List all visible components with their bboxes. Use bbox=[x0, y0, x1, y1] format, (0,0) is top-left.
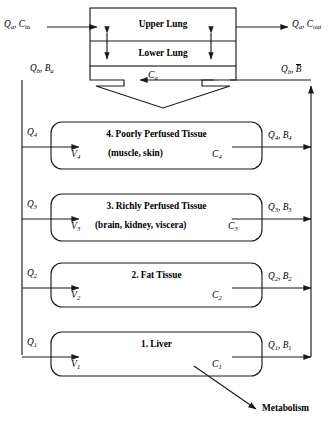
venous-in-flow-base: Q bbox=[281, 64, 288, 74]
arterial-concentration-label: Ca bbox=[148, 70, 158, 80]
outlet-flow-base: Q bbox=[292, 19, 299, 29]
inlet-flow-base: Q bbox=[4, 19, 11, 29]
arterial-conc-sub: a bbox=[154, 74, 157, 81]
c3-inflow-sub: 3 bbox=[34, 203, 37, 210]
arterial-out-flow-sub: b bbox=[37, 67, 40, 74]
inlet-conc-sub: in bbox=[25, 23, 30, 30]
arterial-out-conc-sub: a bbox=[50, 67, 53, 74]
compartment-2-volume: V2 bbox=[71, 290, 80, 300]
c4-inflow-sub: 4 bbox=[34, 131, 37, 138]
c4-volume-base: V bbox=[71, 148, 77, 159]
inlet-flow-sub: a bbox=[11, 23, 14, 30]
c2-inflow-base: Q bbox=[27, 268, 34, 278]
outlet-conc-sub: out bbox=[313, 23, 321, 30]
compartment-2-title: 2. Fat Tissue bbox=[51, 271, 262, 280]
c1-volume-sub: 1 bbox=[77, 363, 80, 370]
venous-in-label: Qb, B bbox=[281, 64, 301, 74]
c3-outflow-flow-base: Q bbox=[268, 202, 275, 212]
compartment-1-outflow-label: Q1, B1 bbox=[268, 341, 292, 350]
compartment-2-inflow-label: Q2 bbox=[27, 269, 37, 278]
compartment-4-inflow-label: Q4 bbox=[27, 128, 37, 137]
compartment-1-volume: V1 bbox=[71, 359, 80, 369]
c1-outflow-conc-sub: 1 bbox=[288, 344, 291, 351]
arterial-out-label: Qb, Ba bbox=[30, 64, 54, 73]
compartment-3-inflow-label: Q3 bbox=[27, 200, 37, 209]
compartment-4-subtitle: (muscle, skin) bbox=[108, 149, 163, 158]
compartment-4-outflow-label: Q4, B4 bbox=[268, 131, 292, 140]
c1-inflow-sub: 1 bbox=[34, 341, 37, 348]
c1-volume-base: V bbox=[71, 358, 77, 369]
compartment-3-outflow-label: Q3, B3 bbox=[268, 203, 292, 212]
c4-outflow-flow-sub: 4 bbox=[275, 134, 278, 141]
c1-outflow-flow-sub: 1 bbox=[275, 344, 278, 351]
c3-conc-sub: 3 bbox=[234, 225, 237, 232]
c3-volume-sub: 3 bbox=[77, 225, 80, 232]
arterial-out-flow-base: Q bbox=[30, 63, 37, 73]
c3-inflow-base: Q bbox=[27, 199, 34, 209]
compartment-2-outflow-label: Q2, B2 bbox=[268, 272, 292, 281]
arterial-funnel bbox=[90, 66, 236, 108]
c1-inflow-base: Q bbox=[27, 337, 34, 347]
compartment-1-title: 1. Liver bbox=[51, 340, 262, 349]
compartment-4-volume: V4 bbox=[71, 149, 80, 159]
inlet-conc-base: C bbox=[19, 19, 25, 29]
c1-outflow-flow-base: Q bbox=[268, 340, 275, 350]
metabolism-arrow bbox=[194, 366, 256, 409]
c4-conc-sub: 4 bbox=[218, 153, 221, 160]
c2-outflow-flow-base: Q bbox=[268, 271, 275, 281]
compartment-3-title: 3. Richly Perfused Tissue bbox=[51, 202, 262, 211]
upper-lung-label: Upper Lung bbox=[90, 20, 236, 29]
compartment-3-concentration: C3 bbox=[228, 221, 238, 231]
compartment-4-title: 4. Poorly Perfused Tissue bbox=[51, 130, 262, 139]
c2-volume-sub: 2 bbox=[77, 294, 80, 301]
lower-lung-label: Lower Lung bbox=[90, 49, 236, 58]
c2-outflow-flow-sub: 2 bbox=[275, 275, 278, 282]
c3-volume-base: V bbox=[71, 220, 77, 231]
compartment-3-subtitle: (brain, kidney, viscera) bbox=[95, 221, 186, 230]
c4-outflow-flow-base: Q bbox=[268, 130, 275, 140]
c2-volume-base: V bbox=[71, 289, 77, 300]
c4-inflow-base: Q bbox=[27, 127, 34, 137]
c2-conc-sub: 2 bbox=[218, 294, 221, 301]
metabolism-label: Metabolism bbox=[262, 404, 309, 413]
venous-in-conc-base: B bbox=[296, 64, 302, 74]
outlet-flow-sub: a bbox=[299, 23, 302, 30]
outlet-conc-base: C bbox=[307, 19, 313, 29]
compartment-3-volume: V3 bbox=[71, 221, 80, 231]
c2-outflow-conc-sub: 2 bbox=[288, 275, 291, 282]
compartment-1-inflow-label: Q1 bbox=[27, 338, 37, 347]
c1-conc-sub: 1 bbox=[218, 363, 221, 370]
compartment-1-concentration: C1 bbox=[212, 359, 222, 369]
venous-in-flow-sub: b bbox=[288, 68, 291, 75]
pbpk-diagram: Qa, Cin Qa, Cout Upper Lung Lower Lung C… bbox=[0, 0, 335, 434]
outlet-label: Qa, Cout bbox=[292, 20, 321, 29]
c4-outflow-conc-sub: 4 bbox=[288, 134, 291, 141]
compartment-2-concentration: C2 bbox=[212, 290, 222, 300]
c2-inflow-sub: 2 bbox=[34, 272, 37, 279]
compartment-4-concentration: C4 bbox=[212, 149, 222, 159]
c3-outflow-flow-sub: 3 bbox=[275, 206, 278, 213]
c3-outflow-conc-sub: 3 bbox=[288, 206, 291, 213]
inlet-label: Qa, Cin bbox=[4, 20, 30, 29]
c4-volume-sub: 4 bbox=[77, 153, 80, 160]
